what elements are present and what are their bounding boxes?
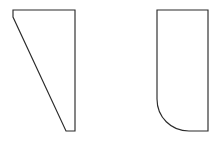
right-rounded-rectangle-shape (157, 10, 208, 131)
figure-canvas (0, 0, 223, 143)
shapes-drawing (0, 0, 223, 143)
left-trapezoid-shape (13, 10, 75, 131)
